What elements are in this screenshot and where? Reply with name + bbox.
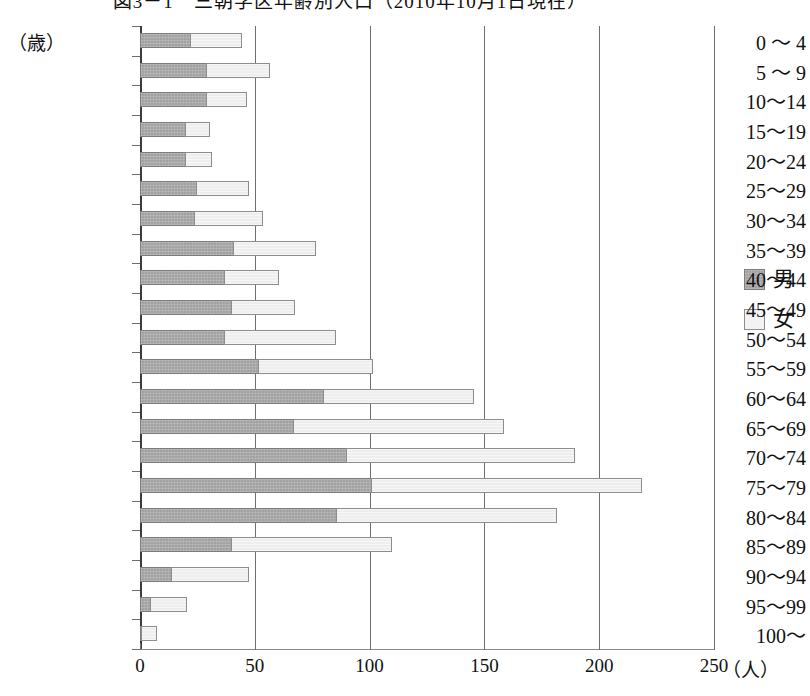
y-tick-label: 0 ～ 4 bbox=[678, 27, 810, 56]
x-axis-line bbox=[140, 649, 715, 650]
y-tick-mark bbox=[132, 26, 140, 27]
y-tick-label: 20～24 bbox=[678, 146, 810, 175]
bar-segment-male bbox=[140, 92, 207, 107]
bar-segment-female bbox=[196, 181, 249, 196]
y-tick-label: 60～64 bbox=[678, 383, 810, 412]
bar-row bbox=[140, 382, 714, 411]
y-tick-label: 5 ～ 9 bbox=[678, 57, 810, 86]
y-tick-label: 10～14 bbox=[678, 86, 810, 115]
stacked-bar bbox=[140, 122, 210, 137]
bar-segment-female bbox=[185, 152, 213, 167]
population-pyramid-figure: 図3－1 三朝学区年齢別人口（2010年10月1日現在） （歳） 男 女 050… bbox=[0, 0, 810, 696]
stacked-bar bbox=[140, 92, 247, 107]
bar-segment-male bbox=[140, 241, 234, 256]
y-tick-mark bbox=[132, 323, 140, 324]
y-tick-label: 80～84 bbox=[678, 502, 810, 531]
bar-row bbox=[140, 56, 714, 85]
y-tick-mark bbox=[132, 115, 140, 116]
bar-segment-female bbox=[171, 567, 249, 582]
y-tick-label: 15～19 bbox=[678, 116, 810, 145]
y-tick-mark bbox=[132, 263, 140, 264]
y-tick-mark bbox=[132, 85, 140, 86]
y-tick-label: 95～99 bbox=[678, 591, 810, 620]
y-tick-mark bbox=[132, 412, 140, 413]
bar-row bbox=[140, 441, 714, 470]
y-tick-mark bbox=[132, 441, 140, 442]
bar-segment-female bbox=[190, 33, 243, 48]
y-tick-label: 30～34 bbox=[678, 205, 810, 234]
y-tick-mark bbox=[132, 56, 140, 57]
y-tick-label: 90～94 bbox=[678, 561, 810, 590]
bar-row bbox=[140, 619, 714, 648]
y-tick-label: 25～29 bbox=[678, 175, 810, 204]
stacked-bar bbox=[140, 181, 249, 196]
bar-segment-female bbox=[371, 478, 642, 493]
bar-segment-female bbox=[231, 300, 295, 315]
bar-segment-male bbox=[140, 181, 197, 196]
x-tick-label-100: 100 bbox=[355, 655, 384, 677]
y-tick-mark bbox=[132, 471, 140, 472]
stacked-bar bbox=[140, 626, 157, 641]
stacked-bar bbox=[140, 330, 336, 345]
bar-row bbox=[140, 145, 714, 174]
bar-row bbox=[140, 204, 714, 233]
bar-segment-female bbox=[233, 241, 316, 256]
x-axis-unit-label: （人） bbox=[722, 655, 779, 682]
bar-row bbox=[140, 115, 714, 144]
stacked-bar bbox=[140, 537, 392, 552]
y-tick-mark bbox=[132, 174, 140, 175]
y-tick-label: 70～74 bbox=[678, 442, 810, 471]
bar-row bbox=[140, 352, 714, 381]
y-tick-label: 35～39 bbox=[678, 235, 810, 264]
y-tick-label: 85～89 bbox=[678, 531, 810, 560]
bar-segment-male bbox=[140, 359, 259, 374]
bar-segment-male bbox=[140, 448, 347, 463]
bar-segment-male bbox=[140, 33, 191, 48]
bar-segment-male bbox=[140, 508, 337, 523]
bar-row bbox=[140, 85, 714, 114]
bar-row bbox=[140, 471, 714, 500]
stacked-bar bbox=[140, 389, 474, 404]
bar-segment-female bbox=[346, 448, 576, 463]
x-tick-label-50: 50 bbox=[245, 655, 264, 677]
stacked-bar bbox=[140, 152, 212, 167]
y-tick-mark bbox=[132, 382, 140, 383]
stacked-bar bbox=[140, 63, 270, 78]
bar-row bbox=[140, 412, 714, 441]
bar-segment-male bbox=[140, 330, 225, 345]
bar-segment-female bbox=[141, 626, 157, 641]
bar-segment-male bbox=[140, 122, 186, 137]
bar-segment-female bbox=[231, 537, 392, 552]
bar-segment-male bbox=[140, 537, 232, 552]
bar-segment-female bbox=[224, 270, 279, 285]
bar-segment-male bbox=[140, 478, 372, 493]
bar-row bbox=[140, 560, 714, 589]
y-tick-mark bbox=[132, 560, 140, 561]
y-axis-unit-label: （歳） bbox=[8, 28, 65, 55]
y-tick-mark bbox=[132, 649, 140, 650]
y-tick-mark bbox=[132, 501, 140, 502]
stacked-bar bbox=[140, 359, 373, 374]
bar-row bbox=[140, 174, 714, 203]
y-tick-mark bbox=[132, 145, 140, 146]
bar-row bbox=[140, 501, 714, 530]
y-tick-mark bbox=[132, 234, 140, 235]
bar-segment-female bbox=[336, 508, 556, 523]
bar-segment-female bbox=[258, 359, 373, 374]
bar-segment-male bbox=[140, 211, 195, 226]
y-tick-label: 100～ bbox=[678, 620, 810, 649]
bar-row bbox=[140, 293, 714, 322]
bar-row bbox=[140, 263, 714, 292]
y-tick-mark bbox=[132, 293, 140, 294]
bar-segment-female bbox=[224, 330, 337, 345]
y-tick-label: 65～69 bbox=[678, 413, 810, 442]
bar-row bbox=[140, 530, 714, 559]
y-tick-label: 45～49 bbox=[678, 294, 810, 323]
chart-title: 図3－1 三朝学区年齢別人口（2010年10月1日現在） bbox=[0, 0, 700, 13]
bar-segment-female bbox=[185, 122, 210, 137]
y-tick-mark bbox=[132, 352, 140, 353]
bar-segment-female bbox=[150, 597, 187, 612]
bar-segment-male bbox=[140, 419, 294, 434]
x-tick-label-200: 200 bbox=[585, 655, 614, 677]
x-tick-label-150: 150 bbox=[470, 655, 499, 677]
